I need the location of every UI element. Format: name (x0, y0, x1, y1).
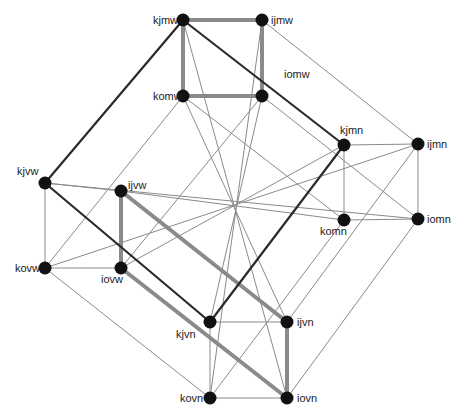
node-ijmw[interactable] (256, 14, 269, 27)
edge-iovw-iovn (121, 268, 287, 398)
node-label-kjmn: kjmn (340, 124, 363, 136)
node-kjmn[interactable] (338, 139, 351, 152)
node-label-iomw: iomw (284, 68, 310, 80)
edge-ijmn-ijvn (287, 144, 418, 322)
node-label-komw: komw (153, 90, 182, 102)
node-label-iovw: iovw (101, 273, 123, 285)
node-label-ijmn: ijmn (427, 138, 447, 150)
edge-ijvw-ijvn (121, 191, 287, 322)
node-kovn[interactable] (204, 392, 217, 405)
node-kjvw[interactable] (39, 177, 52, 190)
node-iomw[interactable] (256, 90, 269, 103)
node-label-kjmw: kjmw (153, 14, 178, 26)
node-label-ijmw: ijmw (271, 14, 293, 26)
node-label-kjvn: kjvn (176, 328, 196, 340)
node-label-kovw: kovw (15, 262, 40, 274)
nodes-layer (39, 14, 425, 405)
node-iomn[interactable] (412, 213, 425, 226)
edge-kovw-ijmn (45, 144, 418, 268)
edge-kjmn-ijmn (344, 144, 418, 145)
node-label-kjvw: kjvw (17, 165, 38, 177)
node-kjmw[interactable] (177, 14, 190, 27)
node-kjvn[interactable] (204, 316, 217, 329)
node-label-iovn: iovn (297, 392, 317, 404)
node-kovw[interactable] (39, 262, 52, 275)
edge-iomn-iovn (287, 219, 418, 398)
graph-canvas: kjmwijmwkomwiomwkjmnijmnkomniomnkjvwijvw… (0, 0, 462, 420)
edge-kjvw-kjvn (45, 183, 210, 322)
node-ijvw[interactable] (115, 185, 128, 198)
edge-iomw-iomn (262, 96, 418, 219)
node-label-ijvw: ijvw (128, 179, 146, 191)
node-label-komn: komn (320, 225, 347, 237)
node-ijvn[interactable] (281, 316, 294, 329)
node-label-iomn: iomn (427, 213, 451, 225)
edge-iovw-kjmn (121, 145, 344, 268)
edges-layer (45, 20, 418, 398)
node-label-ijvn: ijvn (297, 316, 314, 328)
node-ijmn[interactable] (412, 138, 425, 151)
labels-layer: kjmwijmwkomwiomwkjmnijmnkomniomnkjvwijvw… (15, 14, 451, 404)
edge-komn-iomn (344, 219, 418, 220)
node-iovn[interactable] (281, 392, 294, 405)
edge-komn-kovn (210, 220, 344, 398)
node-label-kovn: kovn (180, 392, 203, 404)
